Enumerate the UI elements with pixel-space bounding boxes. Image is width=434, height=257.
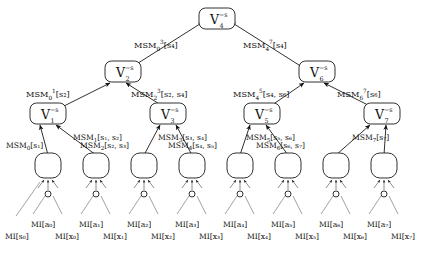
- l2-label-0-args: [s₂]: [56, 89, 70, 99]
- diagram-canvas: V 4 −s V 2 −s V 6 −s V 1 −s V 3 −s: [0, 0, 434, 257]
- level2-right-sub: 6: [320, 75, 324, 83]
- svg-text:MI[x₆]: MI[x₆]: [343, 232, 367, 241]
- l2-label-2-sub: 4: [255, 95, 259, 101]
- mi-upper-6-name: MI: [319, 220, 330, 229]
- svg-text:MSM67[s₆]: MSM67[s₆]: [337, 88, 381, 100]
- mi-lower-0-name: MI: [5, 232, 16, 241]
- mi-lower-4-name: MI: [199, 232, 210, 241]
- l2-label-2-args: [s₄, s₆]: [263, 89, 290, 99]
- level2-edge-label-2: MSM45[s₄, s₆]: [233, 88, 289, 100]
- mi-label-upper-1: MI[a₁]: [79, 220, 103, 229]
- svg-text:MI[a₀]: MI[a₀]: [31, 220, 55, 229]
- node-level3-7: V 7 −s: [364, 103, 400, 125]
- svg-text:MSM0[s₁]: MSM0[s₁]: [6, 141, 43, 151]
- mi-lower-2-args: [x₁]: [114, 232, 127, 241]
- node-root: V 4 −s: [199, 8, 235, 30]
- level3-7-sub: 7: [385, 117, 389, 125]
- level3-7-sup: −s: [384, 106, 393, 114]
- level3-1-sub: 1: [51, 117, 55, 125]
- mi-upper-4-args: [a₄]: [234, 220, 248, 229]
- leaf-label-2-args: [s₂, s₃]: [104, 141, 129, 150]
- mi-lower-6-name: MI: [295, 232, 306, 241]
- mi-upper-3-name: MI: [175, 220, 186, 229]
- svg-text:MI[x₇]: MI[x₇]: [391, 232, 415, 241]
- level2-edge-label-3: MSM67[s₆]: [337, 88, 381, 100]
- svg-text:MSM45[s₄, s₆]: MSM45[s₄, s₆]: [233, 88, 289, 100]
- svg-text:MI[a₃]: MI[a₃]: [175, 220, 199, 229]
- root-label-left-args: [s₄]: [164, 40, 178, 50]
- level2-left-sup: −s: [125, 64, 134, 72]
- svg-text:MI[x₀]: MI[x₀]: [55, 232, 79, 241]
- svg-text:MI[a₂]: MI[a₂]: [127, 220, 151, 229]
- mi-label-upper-7: MI[a₇]: [367, 220, 391, 229]
- level3-5-sup: −s: [264, 106, 273, 114]
- svg-text:MI[a₄]: MI[a₄]: [223, 220, 247, 229]
- l2-label-1-sub: 2: [153, 95, 157, 101]
- mi-label-lower-3: MI[x₂]: [151, 232, 175, 241]
- l2-label-3-args: [s₆]: [367, 89, 381, 99]
- leaf-edge-label-7: MSM7[s₇]: [352, 133, 389, 143]
- svg-text:MI[a₁]: MI[a₁]: [79, 220, 103, 229]
- svg-text:MSM23[s₂, s₄]: MSM23[s₂, s₄]: [131, 88, 187, 100]
- mi-upper-3-args: [a₃]: [186, 220, 200, 229]
- svg-text:MSM7[s₇]: MSM7[s₇]: [352, 133, 389, 143]
- node-level2-right: V 6 −s: [299, 61, 335, 83]
- svg-text:MSM4[s₄, s₅]: MSM4[s₄, s₅]: [168, 141, 217, 151]
- level3-1-sup: −s: [50, 106, 59, 114]
- svg-text:MI[x₃]: MI[x₃]: [199, 232, 223, 241]
- mi-label-lower-1: MI[x₀]: [55, 232, 79, 241]
- l2-label-0-sub: 0: [48, 95, 52, 101]
- mi-lower-4-args: [x₃]: [210, 232, 223, 241]
- mi-upper-1-args: [a₁]: [90, 220, 104, 229]
- leaf-label-7-name: MSM: [352, 133, 373, 142]
- node-level3-5: V 5 −s: [244, 103, 280, 125]
- svg-text:MI[x₅]: MI[x₅]: [295, 232, 319, 241]
- leaf-edge-label-6: MSM6[s₆, s₇]: [256, 141, 305, 151]
- root-node-sup: −s: [219, 11, 228, 19]
- leaf-node-2: [129, 153, 158, 214]
- mi-label-lower-7: MI[x₆]: [343, 232, 367, 241]
- mi-label-upper-3: MI[a₃]: [175, 220, 199, 229]
- root-edge-label-left: MSM03[s₄]: [134, 39, 178, 51]
- leaf-label-2-name: MSM: [80, 141, 101, 150]
- level3-5-sub: 5: [265, 117, 269, 125]
- leaf-label-6-name: MSM: [256, 141, 277, 150]
- svg-text:MI[a₅]: MI[a₅]: [271, 220, 295, 229]
- mi-lower-5-args: [x₄]: [258, 232, 271, 241]
- svg-text:MI[a₆]: MI[a₆]: [319, 220, 343, 229]
- level3-3-sup: −s: [170, 106, 179, 114]
- leaf-label-0-args: [s₁]: [30, 141, 43, 150]
- mi-lower-2-name: MI: [103, 232, 114, 241]
- mi-lower-7-name: MI: [343, 232, 354, 241]
- leaf-label-7-args: [s₇]: [376, 133, 389, 142]
- mi-upper-5-args: [a₅]: [282, 220, 296, 229]
- leaf-node-0: [16, 153, 62, 216]
- l2-label-0-name: MSM: [26, 89, 48, 99]
- mi-label-lower-0: MI[s₀]: [5, 232, 29, 241]
- mi-lower-8-args: [x₇]: [402, 232, 415, 241]
- leaf-node-3: [177, 153, 206, 214]
- mi-label-lower-2: MI[x₁]: [103, 232, 127, 241]
- leaf-edge-label-2: MSM2[s₂, s₃]: [80, 141, 129, 151]
- node-level2-left: V 2 −s: [105, 61, 141, 83]
- l2-label-3-name: MSM: [337, 89, 359, 99]
- level3-3-sub: 3: [171, 117, 175, 125]
- svg-text:MI[s₀]: MI[s₀]: [5, 232, 29, 241]
- msm-tree-diagram: V 4 −s V 2 −s V 6 −s V 1 −s V 3 −s: [0, 0, 434, 257]
- leaf-label-4-args: [s₄, s₅]: [192, 141, 217, 150]
- mi-upper-0-args: [a₀]: [42, 220, 56, 229]
- svg-text:MSM01[s₂]: MSM01[s₂]: [26, 88, 70, 100]
- root-label-right-args: [s₄]: [273, 40, 287, 50]
- mi-upper-4-name: MI: [223, 220, 234, 229]
- mi-label-lower-8: MI[x₇]: [391, 232, 415, 241]
- node-level3-1: V 1 −s: [30, 103, 66, 125]
- svg-text:MI[x₄]: MI[x₄]: [247, 232, 271, 241]
- mi-upper-7-args: [a₇]: [378, 220, 392, 229]
- mi-lower-7-args: [x₆]: [354, 232, 367, 241]
- leaf-node-5: [273, 153, 302, 214]
- mi-upper-2-args: [a₂]: [138, 220, 152, 229]
- mi-lower-8-name: MI: [391, 232, 402, 241]
- mi-upper-7-name: MI: [367, 220, 378, 229]
- root-label-right-name: MSM: [243, 40, 265, 50]
- mi-label-lower-5: MI[x₄]: [247, 232, 271, 241]
